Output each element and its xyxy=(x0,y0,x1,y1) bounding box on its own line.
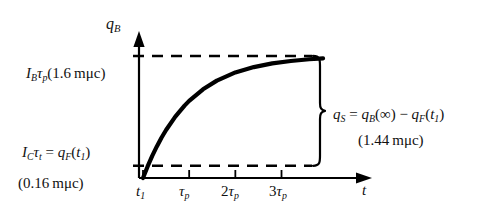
x-tick-label-t1: t1 xyxy=(136,184,145,201)
figure-root: qB t IBτp(1.6 mμc) ICτt = qF(t1) (0.16 m… xyxy=(0,0,493,222)
brace-expression-label: qS = qB(∞) − qF(t1) xyxy=(333,107,444,124)
y-axis-title: qB xyxy=(106,16,120,34)
upper-left-value-label: IBτp(1.6 mμc) xyxy=(26,66,105,83)
x-tick-label-2tau-p: 2τp xyxy=(221,184,239,201)
y-axis-arrowhead xyxy=(133,31,144,47)
x-tick-label-3tau-p: 3τp xyxy=(269,184,287,201)
brace-value-label: (1.44 mμc) xyxy=(358,133,424,149)
charge-curve xyxy=(143,58,323,178)
x-axis-title: t xyxy=(362,183,366,199)
x-tick-label-tau-p: τp xyxy=(179,184,189,201)
lower-left-value-amount: (0.16 mμc) xyxy=(18,176,84,192)
brace-icon xyxy=(313,56,325,166)
lower-left-value-label: ICτt = qF(t1) xyxy=(22,145,90,162)
